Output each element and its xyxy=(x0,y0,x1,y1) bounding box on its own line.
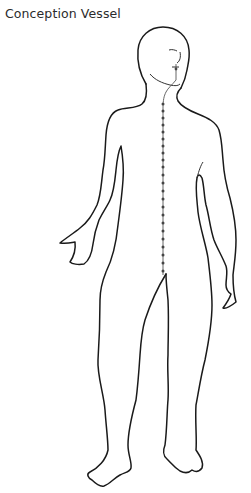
jaw-line xyxy=(150,74,180,86)
acupoint xyxy=(162,262,165,265)
acupoint xyxy=(162,230,165,233)
body-figure xyxy=(0,0,251,493)
acupoint xyxy=(162,190,165,193)
acupoint xyxy=(162,145,165,148)
acupoint xyxy=(162,254,165,257)
acupoint xyxy=(162,124,165,127)
right-body-outline xyxy=(164,88,236,473)
acupoint xyxy=(162,152,165,155)
acupoint xyxy=(162,206,165,209)
acupoint xyxy=(162,214,165,217)
acupoint xyxy=(162,270,165,273)
head-outline xyxy=(138,27,189,88)
acupoint xyxy=(175,68,178,71)
acupoint xyxy=(162,246,165,249)
acupoint xyxy=(162,131,165,134)
acupoint xyxy=(162,198,165,201)
acupoint xyxy=(162,138,165,141)
acupoint xyxy=(162,166,165,169)
acupoint xyxy=(162,159,165,162)
left-body-outline xyxy=(60,84,166,486)
acupoint xyxy=(162,222,165,225)
acupoint xyxy=(162,103,165,106)
acupoint xyxy=(162,174,165,177)
acupoint xyxy=(162,117,165,120)
acupoint xyxy=(162,182,165,185)
acupoint xyxy=(162,238,165,241)
nose-icon xyxy=(177,52,180,63)
acupoint xyxy=(162,110,165,113)
eye-icon xyxy=(169,50,177,51)
conception-vessel-line xyxy=(163,64,176,275)
